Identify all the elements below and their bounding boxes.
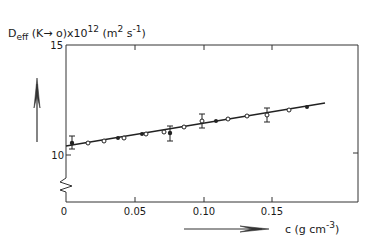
- data-point: [265, 113, 269, 117]
- data-point: [305, 105, 309, 109]
- x-tick-label-0.15: 0.15: [261, 206, 283, 217]
- x-tick-label-0.05: 0.05: [124, 206, 146, 217]
- data-point: [70, 141, 74, 145]
- data-point: [182, 125, 186, 129]
- data-point: [245, 114, 249, 118]
- data-point: [287, 108, 291, 112]
- plot-frame: [60, 45, 358, 202]
- data-point: [168, 131, 172, 135]
- data-point: [162, 130, 166, 134]
- x-tick-label-0: 0: [61, 206, 67, 217]
- data-point: [102, 139, 106, 143]
- right-arrow-icon: [184, 226, 269, 232]
- chart: Deff (K→ o)x1012 (m2 s-1) 15 10 0 0.05 0…: [0, 0, 375, 245]
- up-arrow-icon: [34, 78, 40, 142]
- x-axis-label: c (g cm-3): [285, 220, 339, 236]
- data-point: [226, 117, 230, 121]
- y-tick-label-15: 15: [50, 40, 63, 51]
- data-point: [116, 136, 120, 140]
- data-point: [140, 132, 144, 136]
- data-point: [214, 119, 218, 123]
- x-tick-label-0.10: 0.10: [193, 206, 215, 217]
- data-point: [200, 119, 204, 123]
- y-tick-label-10: 10: [51, 150, 64, 161]
- y-axis-label: Deff (K→ o)x1012 (m2 s-1): [8, 24, 146, 42]
- error-bars: [69, 108, 270, 149]
- data-point: [122, 136, 126, 140]
- data-point: [86, 141, 90, 145]
- data-point: [144, 132, 148, 136]
- y-ticks: [66, 153, 358, 155]
